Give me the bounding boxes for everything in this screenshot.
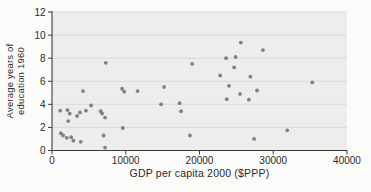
y-tick-label-2: 2 [40,122,46,133]
data-point-34 [232,66,236,70]
data-point-32 [224,56,228,60]
data-point-14 [89,104,93,108]
data-point-38 [238,92,242,96]
data-point-6 [65,136,69,140]
data-point-26 [162,85,166,89]
data-point-16 [100,112,104,116]
data-point-25 [159,102,163,106]
y-axis-title: Average years of education 1960 [4,44,26,119]
data-point-9 [78,111,82,115]
data-point-42 [261,48,265,52]
y-tick-label-0: 0 [40,145,46,156]
data-point-33 [234,55,238,59]
x-tick-label-0: 0 [49,155,55,166]
data-point-22 [122,90,126,94]
data-point-18 [103,116,107,120]
data-point-29 [188,134,192,138]
data-point-41 [247,98,251,102]
y-axis-title-line2: education 1960 [15,44,26,119]
data-point-12 [84,109,88,113]
x-tick-label-30000: 30000 [259,155,287,166]
data-point-5 [61,134,65,138]
data-point-30 [190,62,194,66]
y-tick-label-12: 12 [34,7,46,18]
y-axis-title-line1: Average years of [4,44,15,119]
y-tick-label-10: 10 [34,30,46,41]
data-point-11 [81,89,85,93]
data-point-37 [225,97,229,101]
data-point-45 [310,81,314,85]
y-tick-label-6: 6 [40,76,46,87]
data-point-19 [102,134,106,138]
data-point-7 [69,135,73,139]
data-point-1 [66,108,70,112]
data-point-2 [68,112,72,116]
y-tick-label-4: 4 [40,99,46,110]
data-point-36 [227,84,231,88]
x-tick-label-40000: 40000 [333,155,361,166]
scatter-plot: 010000200003000040000024681012 [0,0,371,192]
data-point-8 [71,139,75,143]
data-point-24 [136,89,140,93]
data-point-20 [103,146,107,150]
x-tick-label-20000: 20000 [186,155,214,166]
x-axis-title: GDP per capita 2000 ($PPP) [52,167,347,179]
data-point-0 [58,109,62,113]
data-point-17 [104,61,108,65]
data-point-10 [75,114,79,118]
data-point-27 [178,101,182,105]
data-point-23 [121,126,125,130]
data-point-43 [252,137,256,141]
y-tick-label-8: 8 [40,53,46,64]
data-point-40 [255,89,259,93]
data-point-35 [239,41,243,45]
data-point-39 [248,75,252,79]
scatter-chart-figure: 010000200003000040000024681012 GDP per c… [0,0,371,192]
data-point-13 [79,140,83,144]
x-tick-label-10000: 10000 [112,155,140,166]
data-point-31 [218,74,222,78]
data-point-3 [66,119,70,123]
data-point-28 [179,109,183,113]
data-point-44 [285,128,289,132]
